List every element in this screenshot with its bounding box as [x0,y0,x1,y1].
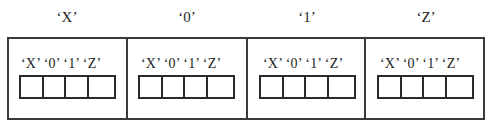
cell [66,77,89,97]
box-0-cells [138,75,235,99]
cell [261,77,284,97]
box-1-header: ‘X’ ‘0’ ‘1’ ‘Z’ [263,56,343,72]
top-label-0: ‘0’ [157,9,217,26]
cell [185,77,208,97]
cell [329,77,352,97]
box-z-cells [377,75,474,99]
cell [140,77,163,97]
top-label-1: ‘1’ [277,9,337,26]
cell [284,77,307,97]
cell [402,77,425,97]
box-0-header: ‘X’ ‘0’ ‘1’ ‘Z’ [141,56,221,72]
divider-1 [126,37,128,120]
cell [447,77,470,97]
cell [44,77,67,97]
divider-2 [246,37,248,120]
cell [379,77,402,97]
top-label-z: ‘Z’ [396,9,456,26]
box-x-header: ‘X’ ‘0’ ‘1’ ‘Z’ [21,56,101,72]
cell [208,77,231,97]
cell [306,77,329,97]
cell [163,77,186,97]
box-x-cells [19,75,116,99]
box-1-cells [259,75,356,99]
top-label-x: ‘X’ [37,9,97,26]
box-z-header: ‘X’ ‘0’ ‘1’ ‘Z’ [380,56,460,72]
cell [89,77,112,97]
divider-3 [364,37,366,120]
cell [21,77,44,97]
cell [424,77,447,97]
